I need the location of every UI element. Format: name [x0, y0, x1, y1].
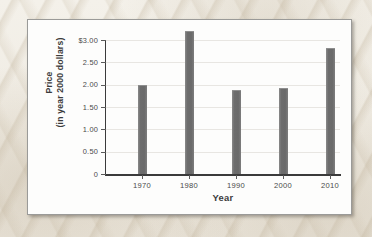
x-axis-tick-label-1980: 1980: [169, 181, 209, 190]
bar-2000[interactable]: [279, 88, 288, 174]
bar-1990[interactable]: [232, 90, 241, 174]
y-axis-tick-label-0: 0: [48, 170, 98, 179]
y-axis-tick-3-00: [101, 40, 106, 41]
chart-card: $3.00 2.50 2.00 1.50 1.00 0.50 0: [27, 19, 352, 215]
y-axis-label-box-0: 0: [48, 170, 98, 179]
x-axis-tick-2000: [283, 175, 284, 179]
x-axis-tick-1970: [142, 175, 143, 179]
x-axis-line: [105, 174, 341, 176]
y-axis-tick-1-50: [101, 107, 106, 108]
gridline-2-50: [106, 62, 340, 63]
y-axis-title-line1: Price: [44, 71, 54, 93]
x-axis-title: Year: [105, 192, 341, 203]
y-axis-tick-label-0-50: 0.50: [48, 147, 98, 156]
y-axis-tick-2-00: [101, 85, 106, 86]
bar-2010[interactable]: [326, 48, 335, 174]
y-axis-tick-2-50: [101, 62, 106, 63]
x-axis-tick-label-1990: 1990: [216, 181, 256, 190]
y-axis-title-line2: (in year 2000 dollars): [54, 23, 65, 143]
y-axis-tick-1-00: [101, 129, 106, 130]
y-axis-title: Price (in year 2000 dollars): [44, 23, 65, 143]
x-axis-tick-label-2010: 2010: [310, 181, 350, 190]
y-axis-tick-0: [101, 174, 106, 175]
bar-1970[interactable]: [138, 85, 147, 174]
y-axis-label-box-0-50: 0.50: [48, 147, 98, 156]
bar-chart-plot-area: $3.00 2.50 2.00 1.50 1.00 0.50 0: [28, 20, 351, 214]
x-axis-tick-label-1970: 1970: [122, 181, 162, 190]
bar-1980[interactable]: [185, 31, 194, 174]
gridline-3-00: [106, 40, 340, 41]
x-axis-tick-1980: [189, 175, 190, 179]
y-axis-tick-0-50: [101, 152, 106, 153]
x-axis-tick-1990: [236, 175, 237, 179]
x-axis-tick-label-2000: 2000: [263, 181, 303, 190]
x-axis-tick-2010: [330, 175, 331, 179]
